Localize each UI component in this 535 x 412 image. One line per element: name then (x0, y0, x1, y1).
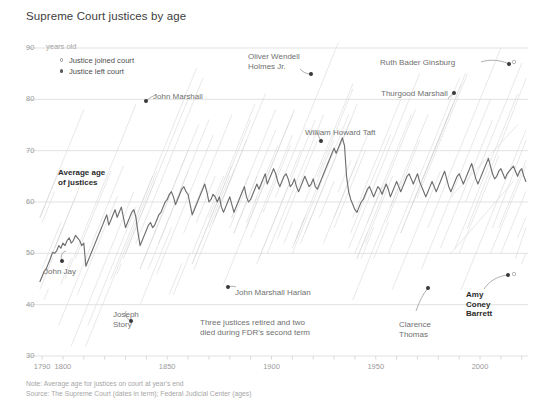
y-axis-tick-40: 40 (26, 300, 48, 309)
justice-tenure-line (493, 140, 526, 227)
justice-tenure-line (192, 176, 223, 253)
justice-tenure-line (334, 151, 365, 228)
justice-tenure-line (468, 79, 526, 228)
justice-tenure-line (422, 104, 453, 181)
justice-tenure-line (44, 289, 48, 299)
justice-tenure-line (515, 228, 525, 259)
y-axis-tick-70: 70 (26, 146, 48, 155)
justice-tenure-line (428, 48, 501, 228)
justice-tenure-line (388, 79, 459, 254)
annotation-joseph-story: Joseph Story (113, 310, 139, 329)
justice-tenure-line (319, 181, 334, 217)
justice-tenure-line (136, 79, 203, 243)
justice-tenure-line (518, 217, 526, 238)
justice-tenure-line (65, 104, 136, 279)
justice-left-marker (60, 259, 63, 262)
annotation-oliver-wendell-holmes: Oliver Wendell Holmes Jr. (248, 52, 300, 71)
chart-root: Supreme Court justices by age years old … (0, 0, 535, 412)
justice-tenure-line (374, 115, 412, 207)
justice-tenure-line (455, 94, 518, 248)
annotation-william-howard-taft: William Howard Taft (305, 128, 376, 138)
justice-tenure-line (138, 69, 196, 213)
y-axis-tick-60: 60 (26, 197, 48, 206)
footnote-source: Source: The Supreme Court (dates in term… (26, 389, 251, 399)
justice-tenure-line (490, 166, 525, 253)
footnotes: Note: Average age for justices on court … (26, 379, 251, 398)
annotation-ruth-bader-ginsburg: Ruth Bader Ginsburg (380, 58, 455, 68)
justice-tenure-line (196, 176, 215, 222)
y-axis-tick-30: 30 (26, 351, 48, 360)
average-age-line (40, 138, 526, 282)
x-axis-tick-1900: 1900 (263, 362, 280, 371)
y-axis-tick-50: 50 (26, 248, 48, 257)
x-axis-tick-1800: 1800 (55, 362, 72, 371)
justice-tenure-line (459, 156, 499, 254)
x-axis-tick-1950: 1950 (367, 362, 384, 371)
justice-left-marker (452, 91, 455, 94)
justice-tenure-line (159, 120, 209, 243)
justice-tenure-line (88, 207, 136, 325)
justice-left-marker (226, 285, 229, 288)
annotation-leader-line (416, 288, 428, 311)
annotation-john-marshall: John Marshall (153, 92, 203, 102)
justice-tenure-line (290, 151, 300, 177)
justice-tenure-line (451, 125, 518, 197)
justice-tenure-line (59, 166, 124, 325)
justice-tenure-line (117, 264, 121, 274)
annotation-thurgood-marshall: Thurgood Marshall (381, 89, 448, 99)
justice-tenure-line (173, 253, 190, 294)
footnote-note: Note: Average age for justices on court … (26, 379, 251, 389)
justice-tenure-line (338, 161, 351, 192)
annotation-john-marshall-harlan: John Marshall Harlan (235, 288, 311, 298)
justice-tenure-line (140, 228, 171, 305)
justice-tenure-line (315, 140, 334, 186)
justice-left-marker (507, 62, 510, 65)
justice-joined-marker (512, 272, 515, 275)
justice-left-marker (506, 273, 509, 276)
justice-tenure-line (357, 233, 367, 259)
justice-left-marker (319, 139, 322, 142)
justice-left-marker (309, 72, 312, 75)
justice-joined-marker (512, 60, 515, 63)
annotation-fdr-second-term: Three justices retired and two died duri… (200, 318, 310, 337)
y-axis-tick-90: 90 (26, 43, 48, 52)
annotation-john-jay: John Jay (44, 267, 76, 277)
justice-tenure-line (522, 253, 526, 263)
justice-tenure-line (501, 192, 526, 254)
justice-tenure-line (140, 151, 188, 269)
justice-tenure-line (284, 223, 292, 244)
x-axis-tick-1790: 1790 (34, 362, 51, 371)
justice-tenure-line (230, 192, 245, 228)
x-axis-tick-2000: 2000 (472, 362, 489, 371)
justice-tenure-line (451, 181, 514, 253)
justice-tenure-line (297, 187, 318, 238)
justice-tenure-line (246, 115, 292, 228)
annotation-clarence-thomas: Clarence Thomas (399, 320, 431, 339)
annotation-amy-coney-barrett: Amy Coney Barrett (466, 290, 492, 319)
justice-left-marker (144, 99, 147, 102)
annotation-leader-line (484, 275, 508, 289)
x-axis-tick-1850: 1850 (159, 362, 176, 371)
justice-tenure-line (351, 135, 391, 233)
annotation-average-age-of-justices: Average age of justices (58, 168, 105, 187)
justice-left-marker (426, 286, 429, 289)
justice-tenure-line (215, 140, 246, 217)
y-axis-tick-80: 80 (26, 94, 48, 103)
